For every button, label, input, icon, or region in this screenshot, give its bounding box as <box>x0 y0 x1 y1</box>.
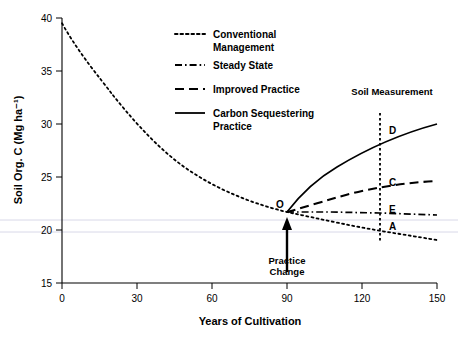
soil-measurement-label: Soil Measurement <box>351 86 433 97</box>
chart-container: 40 35 30 25 20 15 0 30 60 90 120 150 Soi… <box>0 0 458 340</box>
x-tick-label-30: 30 <box>131 293 143 304</box>
x-tick-label-0: 0 <box>59 293 65 304</box>
chart-legend: Conventional Management Steady State Imp… <box>175 29 314 132</box>
series-improved-practice <box>287 181 437 212</box>
x-axis-title: Years of Cultivation <box>199 315 302 327</box>
series-carbon-sequestering-practice <box>287 124 437 212</box>
x-tick-label-120: 120 <box>354 293 371 304</box>
point-label-d: D <box>389 125 396 136</box>
origin-point-label: O <box>276 199 284 210</box>
x-tick-label-90: 90 <box>281 293 293 304</box>
y-axis-ticks: 40 35 30 25 20 15 <box>41 13 62 289</box>
x-tick-label-150: 150 <box>429 293 446 304</box>
y-tick-label-35: 35 <box>41 66 53 77</box>
y-tick-label-40: 40 <box>41 13 53 24</box>
legend-label-improved-practice: Improved Practice <box>213 84 300 95</box>
soil-carbon-line-chart: 40 35 30 25 20 15 0 30 60 90 120 150 Soi… <box>0 0 458 340</box>
practice-change-label-line1: Practice <box>269 255 306 266</box>
y-axis-title: Soil Org. C (Mg ha⁻¹) <box>12 95 24 204</box>
x-axis-ticks: 0 30 60 90 120 150 <box>59 283 446 304</box>
y-tick-label-20: 20 <box>41 225 53 236</box>
series-steady-state <box>287 212 437 215</box>
legend-label-carbon-sequestering-line1: Carbon Sequestering <box>213 108 314 119</box>
point-label-e: E <box>389 204 396 215</box>
point-label-c: C <box>389 177 396 188</box>
y-tick-label-25: 25 <box>41 172 53 183</box>
y-tick-label-15: 15 <box>41 278 53 289</box>
legend-label-conventional-management-line1: Conventional <box>213 29 277 40</box>
legend-label-steady-state: Steady State <box>213 60 273 71</box>
legend-label-carbon-sequestering-line2: Practice <box>213 121 252 132</box>
x-tick-label-60: 60 <box>206 293 218 304</box>
y-tick-label-30: 30 <box>41 119 53 130</box>
point-label-a: A <box>389 221 396 232</box>
legend-label-conventional-management-line2: Management <box>213 42 275 53</box>
practice-change-label-line2: Change <box>270 266 305 277</box>
